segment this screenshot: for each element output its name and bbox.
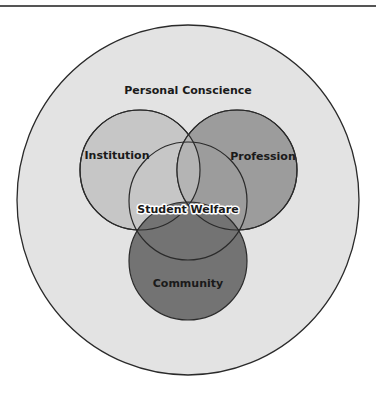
personal-conscience-label: Personal Conscience xyxy=(124,84,251,97)
community-label: Community xyxy=(153,277,223,290)
student-welfare-label: Student Welfare xyxy=(137,203,238,216)
community-circle xyxy=(129,202,247,320)
venn-diagram: Personal Conscience Institution Professi… xyxy=(0,0,376,396)
institution-label: Institution xyxy=(84,149,149,162)
profession-label: Profession xyxy=(230,150,296,163)
